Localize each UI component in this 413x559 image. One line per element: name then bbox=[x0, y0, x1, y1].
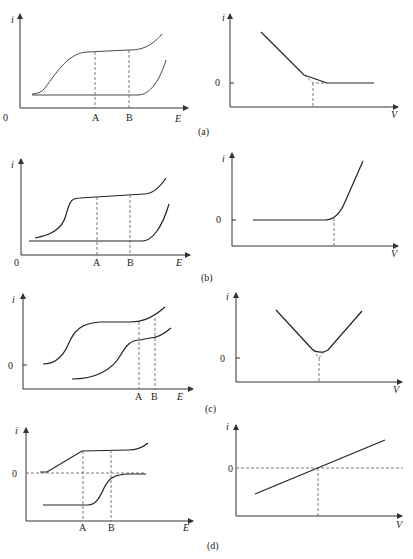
y-axis-label: i bbox=[226, 291, 229, 302]
lower-curve bbox=[32, 60, 166, 95]
caption-b: (b) bbox=[201, 272, 213, 284]
caption-c: (c) bbox=[205, 403, 216, 415]
caption-a: (a) bbox=[198, 126, 209, 138]
zero-label: 0 bbox=[12, 468, 17, 479]
y-axis-label: i bbox=[222, 12, 225, 23]
figure-canvas: i E 0 A B i V 0 (a) i E 0 A B bbox=[0, 0, 413, 559]
marker-b-label: B bbox=[126, 112, 133, 123]
panel-a-left-plot: i E 0 A B bbox=[3, 14, 188, 124]
marker-a-label: A bbox=[79, 522, 87, 533]
y-axis-label: i bbox=[15, 425, 18, 436]
panel-b-left-plot: i E 0 A B bbox=[11, 159, 190, 268]
marker-b-label: B bbox=[108, 522, 115, 533]
iv-curve bbox=[253, 161, 363, 220]
x-axis-label: E bbox=[174, 113, 181, 124]
zero-label: 0 bbox=[216, 214, 221, 225]
lower-curve bbox=[43, 474, 146, 505]
marker-a-label: A bbox=[135, 391, 143, 402]
x-axis-label: V bbox=[396, 519, 404, 530]
upper-curve bbox=[35, 178, 166, 238]
panel-c-left-plot: i E 0 A B bbox=[8, 294, 193, 402]
zero-label: 0 bbox=[215, 77, 220, 88]
y-axis-label: i bbox=[11, 14, 14, 25]
x-axis-label: E bbox=[176, 391, 183, 402]
zero-label: 0 bbox=[220, 353, 225, 364]
x-axis-label: V bbox=[391, 109, 399, 120]
iv-line bbox=[255, 440, 385, 494]
x-axis-label: V bbox=[393, 384, 401, 395]
iv-curve bbox=[261, 32, 374, 83]
lower-curve bbox=[72, 328, 171, 379]
panel-d-left-plot: i E 0 A B bbox=[12, 425, 193, 533]
marker-b-label: B bbox=[127, 257, 134, 268]
upper-curve bbox=[40, 443, 148, 472]
x-axis-label: E bbox=[175, 257, 182, 268]
upper-curve bbox=[43, 307, 165, 364]
upper-curve bbox=[32, 34, 162, 94]
caption-d: (d) bbox=[207, 540, 219, 552]
zero-label: 0 bbox=[8, 360, 13, 371]
y-axis-label: i bbox=[11, 159, 14, 170]
y-axis-label: i bbox=[12, 294, 15, 305]
iv-curve bbox=[276, 310, 362, 352]
panel-d-right-plot: i V 0 bbox=[226, 421, 404, 530]
panel-c-right-plot: i V 0 bbox=[220, 291, 402, 395]
marker-b-label: B bbox=[151, 391, 158, 402]
x-axis-label: E bbox=[182, 522, 189, 533]
y-axis-label: i bbox=[226, 421, 229, 432]
marker-a-label: A bbox=[92, 112, 100, 123]
x-axis-label: V bbox=[391, 248, 399, 259]
panel-b-right-plot: i V 0 bbox=[216, 153, 399, 259]
panel-a-right-plot: i V 0 bbox=[215, 12, 399, 120]
origin-label: 0 bbox=[14, 257, 19, 268]
origin-label: 0 bbox=[3, 112, 8, 123]
lower-curve bbox=[29, 204, 169, 241]
marker-a-label: A bbox=[93, 257, 101, 268]
y-axis-label: i bbox=[222, 153, 225, 164]
zero-label: 0 bbox=[228, 463, 233, 474]
